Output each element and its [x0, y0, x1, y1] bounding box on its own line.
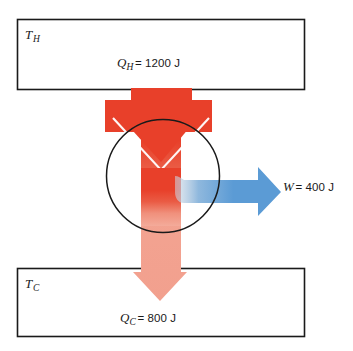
diagram-canvas: TH TC QH= 1200 J QC= 800 J W= 400 J: [0, 0, 353, 351]
heat-out-subscript: C: [130, 317, 136, 327]
hot-reservoir-label: TH: [25, 28, 40, 44]
heat-in-arrow: [105, 88, 212, 226]
work-arrow: [175, 167, 281, 216]
heat-out-label: QC= 800 J: [120, 311, 176, 327]
cold-reservoir-subscript: C: [32, 283, 39, 293]
heat-engine-diagram: [0, 0, 353, 351]
heat-out-value: = 800 J: [136, 312, 176, 324]
cold-reservoir-label: TC: [25, 277, 39, 293]
heat-out-symbol: Q: [120, 310, 130, 325]
heat-in-symbol: Q: [117, 55, 127, 70]
work-out-label: W= 400 J: [283, 180, 334, 194]
heat-in-label: QH= 1200 J: [117, 56, 180, 72]
work-out-symbol: W: [283, 179, 294, 194]
heat-in-value: = 1200 J: [133, 57, 180, 69]
hot-reservoir-subscript: H: [32, 34, 40, 44]
hot-reservoir-box: [18, 20, 305, 90]
work-out-value: = 400 J: [294, 181, 334, 193]
